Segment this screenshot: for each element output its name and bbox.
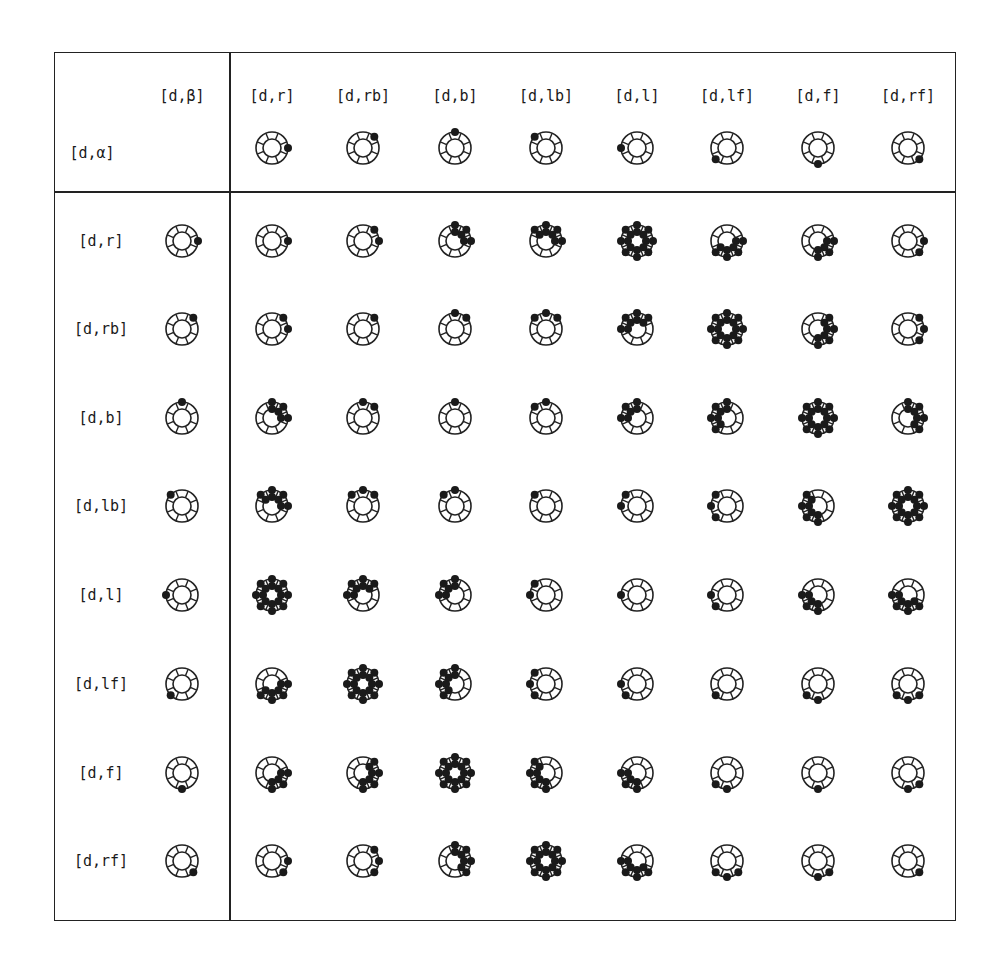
combination-glyph-icon <box>523 306 569 352</box>
row-header-label: [d,l] <box>78 586 123 604</box>
combination-glyph-icon <box>614 306 660 352</box>
column-header-glyph-icon <box>249 125 295 171</box>
combination-glyph-icon <box>523 838 569 884</box>
combination-glyph-icon <box>249 395 295 441</box>
combination-glyph-icon <box>795 395 841 441</box>
column-header-label: [d,lf] <box>700 87 754 105</box>
column-header-label: [d,l] <box>614 87 659 105</box>
combination-glyph-icon <box>704 661 750 707</box>
combination-glyph-icon <box>340 838 386 884</box>
column-header-label: [d,lb] <box>519 87 573 105</box>
combination-glyph-icon <box>432 395 478 441</box>
combination-glyph-icon <box>340 218 386 264</box>
row-header-label: [d,r] <box>78 232 123 250</box>
row-header-label: [d,lb] <box>74 497 128 515</box>
column-header-glyph-icon <box>885 125 931 171</box>
column-header-label: [d,rf] <box>881 87 935 105</box>
combination-glyph-icon <box>340 572 386 618</box>
combination-glyph-icon <box>249 572 295 618</box>
combination-glyph-icon <box>885 395 931 441</box>
row-header-label: [d,b] <box>78 409 123 427</box>
combination-glyph-icon <box>795 661 841 707</box>
combination-glyph-icon <box>795 218 841 264</box>
combination-glyph-icon <box>885 838 931 884</box>
column-header-glyph-icon <box>340 125 386 171</box>
beta-axis-label: [d,β] <box>159 87 204 105</box>
combination-glyph-icon <box>885 218 931 264</box>
combination-glyph-icon <box>614 218 660 264</box>
combination-glyph-icon <box>340 661 386 707</box>
combination-glyph-icon <box>885 661 931 707</box>
combination-glyph-icon <box>432 661 478 707</box>
row-header-glyph-icon <box>159 483 205 529</box>
combination-glyph-icon <box>885 572 931 618</box>
combination-glyph-icon <box>432 218 478 264</box>
column-header-glyph-icon <box>704 125 750 171</box>
row-header-label: [d,rb] <box>74 320 128 338</box>
combination-glyph-icon <box>432 750 478 796</box>
combination-glyph-icon <box>795 750 841 796</box>
combination-glyph-icon <box>249 838 295 884</box>
combination-glyph-icon <box>340 483 386 529</box>
combination-glyph-icon <box>614 838 660 884</box>
combination-glyph-icon <box>704 750 750 796</box>
column-header-label: [d,b] <box>432 87 477 105</box>
row-header-label: [d,rf] <box>74 852 128 870</box>
column-header-glyph-icon <box>614 125 660 171</box>
combination-glyph-icon <box>885 483 931 529</box>
row-header-glyph-icon <box>159 218 205 264</box>
combination-glyph-icon <box>523 750 569 796</box>
column-header-label: [d,r] <box>249 87 294 105</box>
combination-glyph-icon <box>432 306 478 352</box>
combination-glyph-icon <box>885 306 931 352</box>
alpha-axis-label: [d,α] <box>69 144 114 162</box>
combination-glyph-icon <box>704 483 750 529</box>
combination-glyph-icon <box>340 306 386 352</box>
combination-glyph-icon <box>432 483 478 529</box>
combination-glyph-icon <box>704 218 750 264</box>
combination-glyph-icon <box>614 395 660 441</box>
combination-glyph-icon <box>523 218 569 264</box>
combination-glyph-icon <box>432 838 478 884</box>
combination-glyph-icon <box>340 750 386 796</box>
column-header-glyph-icon <box>432 125 478 171</box>
row-header-glyph-icon <box>159 395 205 441</box>
row-header-glyph-icon <box>159 750 205 796</box>
combination-glyph-icon <box>614 661 660 707</box>
column-header-label: [d,rb] <box>336 87 390 105</box>
combination-glyph-icon <box>249 483 295 529</box>
row-header-glyph-icon <box>159 661 205 707</box>
combination-glyph-icon <box>523 572 569 618</box>
combination-glyph-icon <box>432 572 478 618</box>
column-header-glyph-icon <box>523 125 569 171</box>
combination-glyph-icon <box>704 306 750 352</box>
combination-glyph-icon <box>614 483 660 529</box>
row-header-divider <box>229 52 231 921</box>
combination-glyph-icon <box>523 395 569 441</box>
combination-glyph-icon <box>249 750 295 796</box>
combination-glyph-icon <box>704 838 750 884</box>
combination-glyph-icon <box>795 483 841 529</box>
row-header-label: [d,f] <box>78 764 123 782</box>
combination-glyph-icon <box>249 218 295 264</box>
row-header-glyph-icon <box>159 838 205 884</box>
combination-glyph-icon <box>704 572 750 618</box>
combination-glyph-icon <box>795 306 841 352</box>
combination-glyph-icon <box>340 395 386 441</box>
row-header-glyph-icon <box>159 306 205 352</box>
column-header-label: [d,f] <box>795 87 840 105</box>
row-header-label: [d,lf] <box>74 675 128 693</box>
combination-glyph-icon <box>614 572 660 618</box>
row-header-glyph-icon <box>159 572 205 618</box>
column-header-glyph-icon <box>795 125 841 171</box>
combination-glyph-icon <box>704 395 750 441</box>
combination-glyph-icon <box>523 483 569 529</box>
combination-glyph-icon <box>795 838 841 884</box>
combination-glyph-icon <box>795 572 841 618</box>
combination-glyph-icon <box>249 661 295 707</box>
column-header-divider <box>54 191 956 193</box>
combination-glyph-icon <box>885 750 931 796</box>
combination-glyph-icon <box>614 750 660 796</box>
combination-glyph-icon <box>523 661 569 707</box>
combination-glyph-icon <box>249 306 295 352</box>
